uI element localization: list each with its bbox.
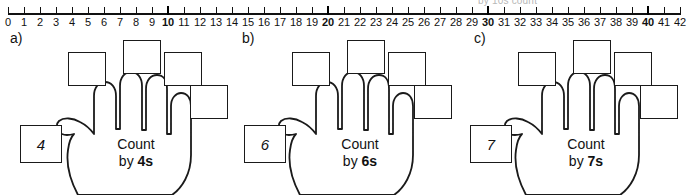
answer-box-c-3[interactable] xyxy=(614,52,652,86)
answer-box-seed-a[interactable]: 4 xyxy=(20,125,62,163)
number-line-label-41: 41 xyxy=(658,17,670,28)
number-line-tick-33 xyxy=(536,7,537,15)
number-line-tick-26 xyxy=(424,7,425,15)
count-caption-b-strong: 6s xyxy=(362,153,378,169)
number-line-tick-23 xyxy=(376,7,377,15)
number-line-label-38: 38 xyxy=(610,17,622,28)
number-line-tick-7 xyxy=(120,7,121,15)
answer-box-a-4[interactable] xyxy=(190,85,228,119)
number-line-label-8: 8 xyxy=(133,17,139,28)
number-line-tick-13 xyxy=(216,7,217,15)
number-line-label-5: 5 xyxy=(85,17,91,28)
number-line-label-19: 19 xyxy=(306,17,318,28)
number-line-tick-28 xyxy=(456,7,457,15)
number-line-label-0: 0 xyxy=(5,17,11,28)
number-line-label-13: 13 xyxy=(210,17,222,28)
number-line-label-12: 12 xyxy=(194,17,206,28)
number-line-tick-34 xyxy=(552,7,553,15)
number-line-tick-21 xyxy=(344,7,345,15)
number-line-label-22: 22 xyxy=(354,17,366,28)
number-line-tick-19 xyxy=(312,7,313,15)
answer-box-a-1[interactable] xyxy=(68,52,106,86)
number-line-tick-12 xyxy=(200,7,201,15)
answer-box-seed-c[interactable]: 7 xyxy=(470,125,512,163)
number-line-label-23: 23 xyxy=(370,17,382,28)
number-line-label-3: 3 xyxy=(53,17,59,28)
number-line-label-10: 10 xyxy=(162,17,174,28)
count-caption-c-prefix: by xyxy=(569,153,588,169)
count-caption-b-prefix: by xyxy=(343,153,362,169)
number-line-label-2: 2 xyxy=(37,17,43,28)
panel-c: c) 7 Count by 7s xyxy=(464,30,696,195)
number-line-label-9: 9 xyxy=(149,17,155,28)
count-caption-c-strong: 7s xyxy=(588,153,604,169)
panel-a: a) 4 Count by 4s xyxy=(0,30,232,195)
number-line-tick-25 xyxy=(408,7,409,15)
number-line-tick-3 xyxy=(56,7,57,15)
number-line-tick-1 xyxy=(24,7,25,15)
number-line-tick-40 xyxy=(647,6,649,15)
count-caption-a-prefix: by xyxy=(119,153,138,169)
number-line-tick-18 xyxy=(296,7,297,15)
number-line-label-11: 11 xyxy=(178,17,189,28)
answer-box-c-4[interactable] xyxy=(640,85,678,119)
number-line-tick-4 xyxy=(72,7,73,15)
number-line-tick-9 xyxy=(152,7,153,15)
number-line-label-18: 18 xyxy=(290,17,302,28)
number-line-tick-15 xyxy=(248,7,249,15)
number-line-tick-32 xyxy=(520,7,521,15)
number-line-label-37: 37 xyxy=(594,17,606,28)
number-line-label-4: 4 xyxy=(69,17,75,28)
number-line-label-1: 1 xyxy=(21,17,27,28)
number-line-tick-10 xyxy=(167,6,169,15)
number-line-tick-11 xyxy=(184,7,185,15)
number-line-tick-24 xyxy=(392,7,393,15)
answer-box-a-3[interactable] xyxy=(164,52,202,86)
number-line-label-30: 30 xyxy=(482,17,494,28)
number-line-label-24: 24 xyxy=(386,17,398,28)
answer-box-b-3[interactable] xyxy=(388,52,426,86)
answer-box-c-2[interactable] xyxy=(573,40,611,74)
number-line-tick-41 xyxy=(664,7,665,15)
answer-box-b-2[interactable] xyxy=(347,40,385,74)
answer-box-seed-b[interactable]: 6 xyxy=(244,125,286,163)
answer-box-b-4[interactable] xyxy=(414,85,452,119)
number-line-label-33: 33 xyxy=(530,17,542,28)
number-line-label-28: 28 xyxy=(450,17,462,28)
answer-box-b-1[interactable] xyxy=(292,52,330,86)
number-line-label-42: 42 xyxy=(674,17,686,28)
number-line-tick-14 xyxy=(232,7,233,15)
number-line-label-32: 32 xyxy=(514,17,526,28)
number-line-tick-42 xyxy=(680,7,681,15)
number-line-tick-0 xyxy=(8,7,9,15)
number-line-tick-16 xyxy=(264,7,265,15)
number-line-tick-37 xyxy=(600,7,601,15)
number-line-label-27: 27 xyxy=(434,17,446,28)
number-line-label-26: 26 xyxy=(418,17,430,28)
number-line-label-14: 14 xyxy=(226,17,238,28)
count-caption-c: Count by 7s xyxy=(550,136,622,170)
number-line-label-21: 21 xyxy=(338,17,350,28)
answer-box-c-1[interactable] xyxy=(518,52,556,86)
number-line-label-20: 20 xyxy=(322,17,334,28)
number-line-label-6: 6 xyxy=(101,17,107,28)
number-line-tick-30 xyxy=(487,6,489,15)
count-caption-c-line1: Count xyxy=(567,136,604,152)
number-line-label-34: 34 xyxy=(546,17,558,28)
answer-box-a-2[interactable] xyxy=(123,40,161,74)
number-line-tick-31 xyxy=(504,7,505,15)
number-line-tick-5 xyxy=(88,7,89,15)
number-line-label-7: 7 xyxy=(117,17,123,28)
number-line-label-31: 31 xyxy=(498,17,510,28)
panel-b: b) 6 Count by 6s xyxy=(232,30,464,195)
number-line-tick-8 xyxy=(136,7,137,15)
number-line-tick-39 xyxy=(632,7,633,15)
count-caption-b-line1: Count xyxy=(341,136,378,152)
number-line-label-25: 25 xyxy=(402,17,414,28)
number-line-label-16: 16 xyxy=(258,17,270,28)
number-line-label-36: 36 xyxy=(578,17,590,28)
number-line: 0123456789101112131415161718192021222324… xyxy=(0,4,696,30)
count-caption-a-line1: Count xyxy=(117,136,154,152)
count-caption-b: Count by 6s xyxy=(324,136,396,170)
number-line-label-29: 29 xyxy=(466,17,478,28)
